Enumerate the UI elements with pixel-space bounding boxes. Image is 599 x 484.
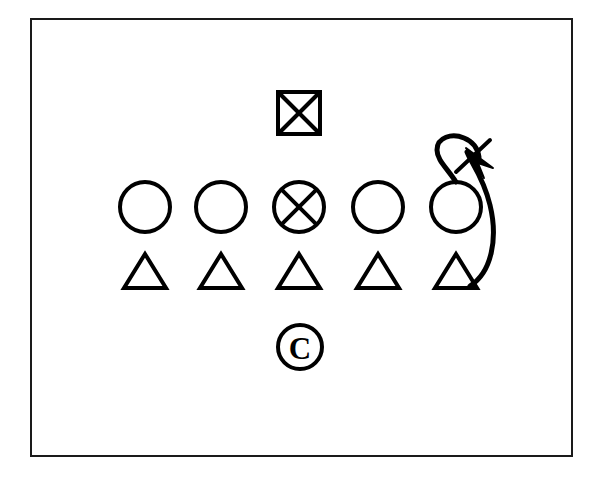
diagram-svg: C xyxy=(0,0,599,484)
diagram-background xyxy=(0,0,599,484)
play-diagram-canvas: Football Play Formation Diagram C xyxy=(0,0,599,484)
center-marker-letter: C xyxy=(289,331,311,366)
